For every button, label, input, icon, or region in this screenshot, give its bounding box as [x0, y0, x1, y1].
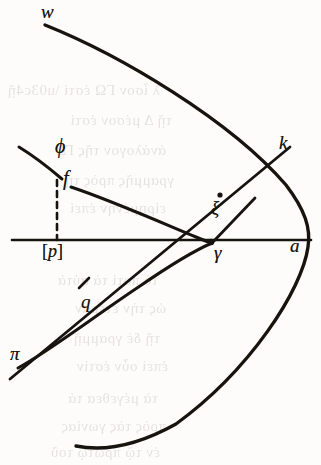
label-pi: π: [10, 344, 20, 363]
label-q: q: [81, 292, 91, 311]
label-k: k: [279, 133, 287, 152]
label-f: f: [63, 168, 69, 188]
label-phi: ϕ: [55, 136, 65, 156]
label-a: a: [290, 236, 300, 255]
label-w: w: [41, 2, 54, 21]
line-q-to-k: [10, 147, 290, 379]
diagram-canvas: [0, 0, 321, 465]
label-p-letter: p: [48, 241, 57, 261]
label-xi: ξ: [211, 198, 219, 217]
geometric-figure: λ ἶσον ΓΩ ἐστί \u03c4ῇτῇ Δ μέσον ἐστίἀνά…: [0, 0, 321, 465]
curve-f-to-gamma: [71, 187, 212, 243]
label-gamma: γ: [214, 243, 222, 262]
tick-mark-q: [79, 278, 89, 288]
parabola-curve-w-a: [45, 25, 309, 448]
label-p-close: ]: [57, 241, 63, 261]
label-p-bracketed: [p]: [42, 242, 63, 260]
